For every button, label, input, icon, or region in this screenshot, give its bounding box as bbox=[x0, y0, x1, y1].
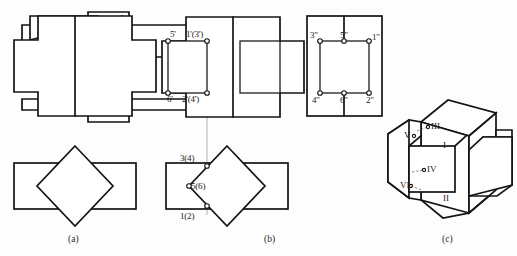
label-face-V: V bbox=[404, 131, 411, 140]
point-marker-1-3-prime bbox=[205, 39, 210, 44]
label-4-dprime: 4" bbox=[312, 96, 320, 105]
label-5-6: 5(6) bbox=[191, 182, 205, 191]
label-face-I: I bbox=[443, 141, 446, 150]
label-1-2: 1(2) bbox=[180, 212, 194, 221]
label-1-dprime: 1" bbox=[372, 33, 380, 42]
caption-a: (a) bbox=[68, 234, 79, 244]
label-2-4-prime: 2'(4') bbox=[182, 95, 199, 104]
label-6-dprime: 6" bbox=[340, 96, 348, 105]
point-marker-3-dprime bbox=[318, 39, 323, 44]
point-marker-5-prime bbox=[166, 39, 171, 44]
panel-b bbox=[162, 17, 304, 226]
point-marker-2-4-prime bbox=[205, 91, 210, 96]
label-5-dprime: 5" bbox=[340, 31, 348, 40]
point-marker-3-4 bbox=[205, 164, 210, 169]
panel-c-isometric-view bbox=[388, 100, 512, 218]
point-marker-1-dprime bbox=[367, 39, 372, 44]
label-6-prime: 6' bbox=[167, 95, 173, 104]
label-2-dprime: 2" bbox=[366, 96, 374, 105]
figure-container: .ln { stroke:#141414; stroke-width:1.7; … bbox=[0, 0, 517, 256]
label-5-prime: 5' bbox=[170, 30, 176, 39]
caption-b: (b) bbox=[264, 234, 275, 244]
label-1-3-prime: 1'(3') bbox=[186, 30, 203, 39]
label-face-III: III bbox=[431, 122, 440, 131]
label-3-dprime: 3" bbox=[310, 31, 318, 40]
leader-dot-IV bbox=[422, 168, 425, 171]
label-face-VI: VI bbox=[400, 181, 410, 190]
point-marker-1-2 bbox=[205, 204, 210, 209]
caption-c: (c) bbox=[442, 234, 453, 244]
leader-dot-V bbox=[412, 134, 415, 137]
label-face-IV: IV bbox=[427, 165, 437, 174]
label-face-II: II bbox=[443, 194, 449, 203]
leader-dot-III bbox=[426, 125, 429, 128]
panel-a-top-view bbox=[14, 146, 136, 226]
label-3-4: 3(4) bbox=[180, 154, 194, 163]
